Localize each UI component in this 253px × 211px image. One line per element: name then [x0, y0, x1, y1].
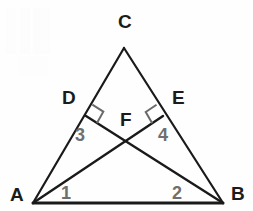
label-D: D — [62, 88, 76, 107]
label-B: B — [231, 184, 245, 203]
segment-BD — [86, 116, 223, 203]
segment-AE — [33, 116, 163, 203]
segment-BC — [124, 48, 223, 203]
angle-1: 1 — [61, 184, 71, 202]
diagram-canvas: CDEFAB1234 — [0, 0, 253, 211]
angle-4: 4 — [158, 126, 168, 144]
label-E: E — [172, 88, 185, 107]
label-F: F — [120, 110, 132, 129]
angle-2: 2 — [172, 184, 182, 202]
label-C: C — [118, 12, 132, 31]
angle-3: 3 — [75, 126, 85, 144]
label-A: A — [10, 185, 24, 204]
